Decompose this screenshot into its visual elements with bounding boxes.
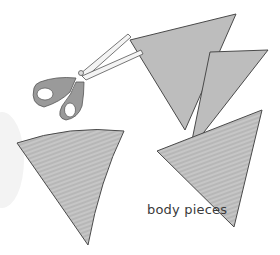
left-curved-triangle-piece bbox=[17, 130, 124, 246]
scissors-icon bbox=[33, 34, 143, 120]
illustration-canvas bbox=[0, 0, 280, 255]
caption-body-pieces: body pieces bbox=[147, 202, 227, 217]
background-blob bbox=[0, 112, 24, 208]
